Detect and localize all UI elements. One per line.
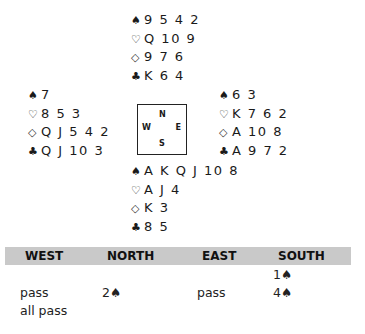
north-diamonds: ◇9 7 6	[131, 48, 200, 67]
east-diamonds: ◇A 10 8	[219, 123, 289, 142]
west-clubs: ♣Q J 10 3	[28, 142, 110, 161]
spade-icon: ♠	[131, 12, 144, 30]
east-spades: ♠6 3	[219, 86, 289, 105]
bid-south: 4♠	[273, 285, 292, 300]
compass-box: N W E S	[137, 104, 187, 155]
north-clubs-cards: K 6 4	[144, 68, 185, 83]
bid-east: pass	[197, 285, 226, 300]
compass-south: S	[159, 138, 165, 148]
south-spades: ♠A K Q J 10 8	[131, 162, 239, 181]
spade-icon: ♠	[219, 87, 232, 105]
club-icon: ♣	[28, 143, 41, 161]
east-hand: ♠6 3 ♡K 7 6 2 ◇A 10 8 ♣A 9 7 2	[219, 86, 289, 160]
west-clubs-cards: Q J 10 3	[41, 143, 104, 158]
bidding-header: WEST NORTH EAST SOUTH	[5, 247, 351, 265]
east-clubs: ♣A 9 7 2	[219, 142, 289, 161]
east-hearts-cards: K 7 6 2	[232, 106, 288, 121]
compass-west: W	[142, 122, 151, 132]
heart-icon: ♡	[219, 106, 232, 124]
diamond-icon: ◇	[131, 49, 144, 67]
bid-row: all pass	[0, 303, 365, 321]
north-spades: ♠9 5 4 2	[131, 11, 200, 30]
header-east: EAST	[202, 249, 236, 263]
east-hearts: ♡K 7 6 2	[219, 105, 289, 124]
spade-icon: ♠	[131, 163, 144, 181]
north-spades-cards: 9 5 4 2	[144, 12, 200, 27]
heart-icon: ♡	[131, 31, 144, 49]
south-clubs: ♣8 5	[131, 218, 239, 237]
east-clubs-cards: A 9 7 2	[232, 143, 289, 158]
compass-east: E	[175, 122, 181, 132]
bid-south: 1♠	[273, 267, 292, 282]
west-diamonds-cards: Q J 5 4 2	[41, 124, 110, 139]
west-hearts-cards: 8 5 3	[41, 106, 82, 121]
bid-north: 2♠	[102, 285, 121, 300]
spade-icon: ♠	[28, 87, 41, 105]
south-diamonds-cards: K 3	[144, 200, 169, 215]
west-spades-cards: 7	[41, 87, 51, 102]
bid-row: 1♠	[0, 267, 365, 285]
south-hand: ♠A K Q J 10 8 ♡A J 4 ◇K 3 ♣8 5	[131, 162, 239, 236]
south-hearts: ♡A J 4	[131, 181, 239, 200]
heart-icon: ♡	[131, 182, 144, 200]
south-spades-cards: A K Q J 10 8	[144, 163, 239, 178]
heart-icon: ♡	[28, 106, 41, 124]
club-icon: ♣	[219, 143, 232, 161]
west-spades: ♠7	[28, 86, 110, 105]
diamond-icon: ◇	[219, 124, 232, 142]
club-icon: ♣	[131, 219, 144, 237]
compass-north: N	[159, 109, 166, 119]
west-hand: ♠7 ♡8 5 3 ◇Q J 5 4 2 ♣Q J 10 3	[28, 86, 110, 160]
north-hearts: ♡Q 10 9	[131, 30, 200, 49]
diamond-icon: ◇	[131, 200, 144, 218]
header-west: WEST	[25, 249, 63, 263]
north-diamonds-cards: 9 7 6	[144, 49, 185, 64]
header-north: NORTH	[107, 249, 154, 263]
north-hand: ♠9 5 4 2 ♡Q 10 9 ◇9 7 6 ♣K 6 4	[131, 11, 200, 85]
header-south: SOUTH	[278, 249, 325, 263]
south-clubs-cards: 8 5	[144, 219, 169, 234]
east-diamonds-cards: A 10 8	[232, 124, 283, 139]
diamond-icon: ◇	[28, 124, 41, 142]
north-clubs: ♣K 6 4	[131, 67, 200, 86]
east-spades-cards: 6 3	[232, 87, 257, 102]
north-hearts-cards: Q 10 9	[144, 31, 196, 46]
west-diamonds: ◇Q J 5 4 2	[28, 123, 110, 142]
bid-west: pass	[20, 285, 49, 300]
bid-west: all pass	[20, 303, 67, 318]
south-diamonds: ◇K 3	[131, 199, 239, 218]
west-hearts: ♡8 5 3	[28, 105, 110, 124]
club-icon: ♣	[131, 68, 144, 86]
south-hearts-cards: A J 4	[144, 182, 181, 197]
bidding-sequence: 1♠ pass 2♠ pass 4♠ all pass	[0, 267, 365, 321]
bid-row: pass 2♠ pass 4♠	[0, 285, 365, 303]
